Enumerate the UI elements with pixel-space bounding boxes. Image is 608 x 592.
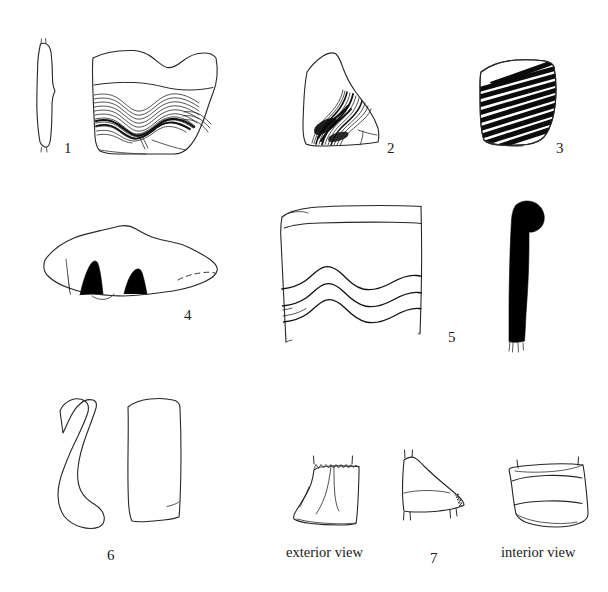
- figure-7-interior-view: [509, 457, 588, 527]
- figure-label-3: 3: [556, 141, 564, 156]
- figure-5-sherd: [281, 206, 422, 343]
- figure-label-7: 7: [430, 551, 438, 566]
- figure-1-comb-incised-lines: [94, 94, 199, 143]
- figure-3-sherd: [474, 57, 562, 158]
- figure-label-1: 1: [64, 141, 72, 156]
- illustration-plate: 1 2 3 4 5 6 7 exterior view interior vie…: [0, 0, 608, 592]
- figure-label-4: 4: [184, 308, 192, 323]
- figure-6-handle-profile: [58, 399, 104, 529]
- figure-1-sherd: [93, 50, 218, 154]
- figure-7-exterior-view: [294, 456, 359, 525]
- figure-label-5: 5: [448, 330, 456, 345]
- figure-7-section-view: [403, 450, 465, 520]
- figure-1-section-profile: [37, 39, 55, 153]
- figure-4-sherd: [44, 226, 217, 300]
- figure-5-section-profile: [509, 201, 544, 352]
- figure-2-sherd: [303, 53, 379, 146]
- exterior-view-label: exterior view: [286, 545, 363, 560]
- figure-6-handle-front-view: [128, 398, 181, 521]
- figure-label-2: 2: [387, 141, 395, 156]
- figure-4-black-motifs: [66, 259, 147, 295]
- plate-drawing-canvas: [0, 0, 608, 592]
- interior-view-label: interior view: [501, 545, 576, 560]
- figure-label-6: 6: [107, 548, 115, 563]
